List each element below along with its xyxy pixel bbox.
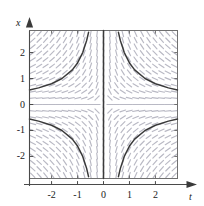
x-axis-label: t xyxy=(189,192,192,202)
x-tick-label: -2 xyxy=(40,190,64,200)
y-tick-label: 2 xyxy=(4,48,25,58)
y-axis-label: x xyxy=(16,18,20,28)
y-axis-arrowhead xyxy=(26,17,33,28)
x-tick-label: 0 xyxy=(92,190,116,200)
plot-canvas xyxy=(0,0,204,206)
slope-field-figure: x t -2-1012 -2-1012 xyxy=(0,0,204,206)
x-tick-label: 1 xyxy=(117,190,141,200)
x-axis-arrowhead xyxy=(187,181,198,188)
y-tick-label: 0 xyxy=(4,100,25,110)
x-tick-label: 2 xyxy=(143,190,167,200)
y-tick-label: 1 xyxy=(4,74,25,84)
x-tick-label: -1 xyxy=(66,190,90,200)
y-tick-label: -1 xyxy=(4,125,25,135)
y-tick-label: -2 xyxy=(4,151,25,161)
